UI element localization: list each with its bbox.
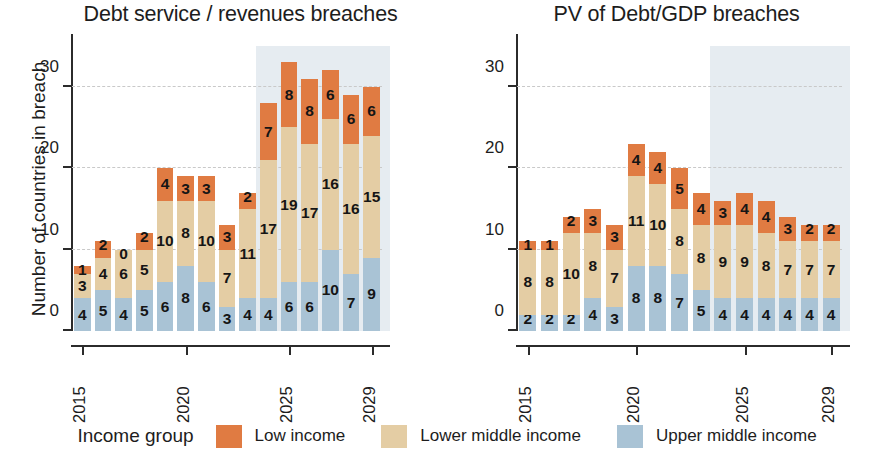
bar-segment-lower: 8 — [519, 250, 536, 315]
bar-2024[interactable]: 4177 — [260, 103, 277, 331]
bar-2018[interactable]: 483 — [584, 209, 601, 331]
bar-2026[interactable]: 484 — [758, 201, 775, 331]
y-axis-tick-label: 20 — [485, 138, 504, 158]
bar-segment-upper: 10 — [322, 250, 339, 331]
y-axis-tick — [63, 166, 72, 168]
bar-value-label: 8 — [305, 103, 314, 119]
bar-2020[interactable]: 8114 — [628, 144, 645, 331]
bar-value-label: 16 — [342, 201, 359, 217]
bar-segment-lower: 10 — [563, 233, 580, 314]
bar-2025[interactable]: 6198 — [281, 62, 298, 331]
bar-segment-lower: 10 — [198, 201, 215, 282]
bar-segment-low: 2 — [801, 225, 818, 241]
bar-2018[interactable]: 552 — [136, 233, 153, 331]
bar-2026[interactable]: 6178 — [301, 79, 318, 331]
legend-item-low-income[interactable]: Low income — [216, 425, 346, 448]
bar-2015[interactable]: 281 — [519, 241, 536, 331]
y-axis-tick — [63, 329, 72, 331]
bar-segment-lower: 8 — [758, 233, 775, 298]
bar-2028[interactable]: 472 — [801, 225, 818, 331]
bar-segment-low: 1 — [541, 241, 558, 249]
bar-value-label: 2 — [140, 229, 149, 245]
legend-swatch-upper-middle-income — [617, 425, 643, 448]
bar-segment-low: 2 — [823, 225, 840, 241]
bar-value-label: 7 — [264, 124, 273, 140]
bar-value-label: 7 — [347, 295, 356, 311]
bar-value-label: 4 — [762, 307, 771, 323]
bar-2016[interactable]: 281 — [541, 241, 558, 331]
bar-segment-low: 6 — [363, 87, 380, 136]
panel-debt-service-revenues: Debt service / revenues breaches Number … — [0, 0, 455, 410]
y-axis-tick — [63, 248, 72, 250]
plot-inner-left: 0102030201520202025202943154246055261048… — [72, 46, 382, 331]
bar-series-group: 4315424605526104883610337341124177619861… — [72, 46, 382, 331]
bar-2025[interactable]: 494 — [736, 193, 753, 331]
bar-2022[interactable]: 785 — [671, 168, 688, 331]
bar-segment-low: 3 — [584, 209, 601, 233]
bar-value-label: 4 — [654, 160, 663, 176]
x-axis-line-right — [516, 345, 850, 347]
bar-2027[interactable]: 10166 — [322, 70, 339, 331]
bar-segment-upper: 4 — [584, 298, 601, 331]
bar-2023[interactable]: 584 — [693, 193, 710, 331]
bar-value-label: 6 — [202, 299, 211, 315]
x-axis-tick — [289, 347, 291, 355]
bar-value-label: 6 — [119, 266, 128, 282]
bar-2019[interactable]: 6104 — [157, 168, 174, 331]
bar-value-label: 2 — [243, 189, 252, 205]
bar-value-label: 4 — [99, 266, 108, 282]
bar-segment-upper: 6 — [157, 282, 174, 331]
bar-segment-lower: 4 — [95, 258, 112, 291]
bar-value-label: 10 — [156, 233, 173, 249]
bar-2023[interactable]: 4112 — [239, 193, 256, 331]
bar-2020[interactable]: 883 — [177, 176, 194, 331]
bar-segment-lower: 9 — [714, 225, 731, 298]
bar-2017[interactable]: 460 — [115, 250, 132, 331]
bar-2017[interactable]: 2102 — [563, 217, 580, 331]
bar-2021[interactable]: 6103 — [198, 176, 215, 331]
bar-segment-upper: 4 — [779, 298, 796, 331]
bar-value-label: 7 — [784, 262, 793, 278]
bar-value-label: 9 — [719, 254, 728, 270]
bar-2029[interactable]: 472 — [823, 225, 840, 331]
bar-2016[interactable]: 542 — [95, 241, 112, 331]
bar-segment-upper: 6 — [281, 282, 298, 331]
bar-segment-upper: 5 — [693, 290, 710, 331]
bar-value-label: 4 — [740, 307, 749, 323]
bar-segment-upper: 2 — [519, 315, 536, 331]
x-axis-tick — [745, 347, 747, 355]
y-axis-tick-label: 10 — [485, 220, 504, 240]
panel-title-right: PV of Debt/GDP breaches — [455, 2, 894, 27]
bar-value-label: 17 — [260, 221, 277, 237]
bar-value-label: 8 — [675, 233, 684, 249]
bar-segment-upper: 7 — [671, 274, 688, 331]
y-axis-tick — [508, 329, 517, 331]
bar-value-label: 8 — [285, 87, 294, 103]
bar-segment-lower: 11 — [628, 176, 645, 266]
bar-value-label: 2 — [805, 221, 814, 237]
bar-2019[interactable]: 373 — [606, 225, 623, 331]
panel-pv-debt-gdp: PV of Debt/GDP breaches 0102030201520202… — [455, 0, 894, 410]
y-axis-tick — [508, 248, 517, 250]
bar-value-label: 4 — [719, 307, 728, 323]
bar-2028[interactable]: 7166 — [343, 95, 360, 331]
bar-2027[interactable]: 473 — [779, 217, 796, 331]
bar-value-label: 8 — [545, 274, 554, 290]
bar-2024[interactable]: 493 — [714, 201, 731, 331]
bar-2029[interactable]: 9156 — [363, 87, 380, 331]
y-axis-tick-label: 0 — [495, 301, 504, 321]
x-axis-tick — [186, 347, 188, 355]
bar-segment-lower: 8 — [177, 201, 194, 266]
bar-2015[interactable]: 431 — [74, 266, 91, 331]
bar-segment-upper: 4 — [736, 298, 753, 331]
bar-segment-lower: 17 — [260, 160, 277, 298]
bar-value-label: 7 — [827, 262, 836, 278]
legend-item-upper-middle-income[interactable]: Upper middle income — [617, 425, 817, 448]
bar-2021[interactable]: 8104 — [649, 152, 666, 331]
legend-item-lower-middle-income[interactable]: Lower middle income — [381, 425, 581, 448]
bar-segment-low: 6 — [343, 95, 360, 144]
bar-value-label: 4 — [784, 307, 793, 323]
bar-2022[interactable]: 373 — [219, 225, 236, 331]
bar-segment-low: 2 — [136, 233, 153, 249]
bar-value-label: 8 — [654, 290, 663, 306]
